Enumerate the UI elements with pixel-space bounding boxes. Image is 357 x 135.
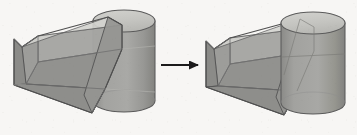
cylinder-right — [281, 12, 345, 114]
diagram-canvas: Left panel shows a tilted open-top trans… — [0, 0, 357, 135]
panel-right — [206, 12, 345, 115]
geometry-illustration — [0, 0, 357, 135]
cylinder-right-body — [281, 23, 345, 114]
cylinder-right-top-face — [281, 12, 345, 34]
panel-left — [14, 10, 155, 113]
